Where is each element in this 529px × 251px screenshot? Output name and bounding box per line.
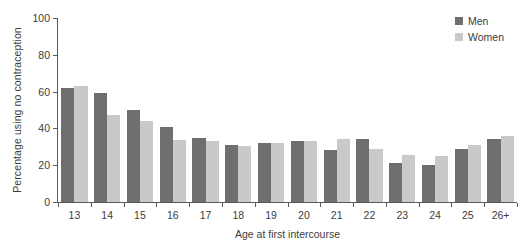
plot-area <box>58 18 517 202</box>
bar-women[interactable] <box>501 136 514 202</box>
y-tick-label: 20 <box>16 159 50 171</box>
x-tick-mark <box>288 203 289 207</box>
x-tick-mark <box>320 203 321 207</box>
bar-group <box>353 18 386 202</box>
bar-group <box>419 18 452 202</box>
legend-label-women: Women <box>468 31 504 43</box>
bar-group <box>58 18 91 202</box>
bar-men[interactable] <box>422 165 435 202</box>
legend-swatch-men-icon <box>455 17 463 25</box>
bar-men[interactable] <box>356 139 369 202</box>
x-tick-mark <box>58 203 59 207</box>
bar-group <box>189 18 222 202</box>
bar-women[interactable] <box>173 140 186 202</box>
x-tick-mark <box>517 203 518 207</box>
bar-men[interactable] <box>127 110 140 202</box>
bar-group <box>451 18 484 202</box>
bar-women[interactable] <box>238 146 251 202</box>
x-tick-mark <box>386 203 387 207</box>
bar-men[interactable] <box>94 93 107 202</box>
bar-group <box>156 18 189 202</box>
y-tick-label: 40 <box>16 122 50 134</box>
x-tick-mark <box>451 203 452 207</box>
bar-men[interactable] <box>455 149 468 202</box>
bar-men[interactable] <box>61 88 74 202</box>
legend-item-women[interactable]: Women <box>455 29 504 45</box>
legend-label-men: Men <box>468 15 488 27</box>
bar-women[interactable] <box>337 139 350 202</box>
x-tick-mark <box>124 203 125 207</box>
bar-women[interactable] <box>402 155 415 202</box>
bar-group <box>320 18 353 202</box>
bar-women[interactable] <box>140 121 153 202</box>
bar-men[interactable] <box>225 145 238 202</box>
x-axis-title: Age at first intercourse <box>58 228 517 240</box>
bar-women[interactable] <box>206 141 219 202</box>
x-tick-mark <box>91 203 92 207</box>
bar-group <box>222 18 255 202</box>
bar-women[interactable] <box>271 143 284 202</box>
bar-group <box>124 18 157 202</box>
y-tick-label: 80 <box>16 49 50 61</box>
bar-women[interactable] <box>435 156 448 202</box>
bar-group <box>288 18 321 202</box>
bar-men[interactable] <box>160 127 173 202</box>
bar-group <box>255 18 288 202</box>
bar-women[interactable] <box>304 141 317 202</box>
y-tick-label: 0 <box>16 196 50 208</box>
y-tick-label: 60 <box>16 86 50 98</box>
bar-group <box>484 18 517 202</box>
bar-group <box>386 18 419 202</box>
y-tick-label: 100 <box>16 12 50 24</box>
bar-men[interactable] <box>258 143 271 202</box>
bar-men[interactable] <box>291 141 304 202</box>
bar-women[interactable] <box>74 86 87 202</box>
bar-men[interactable] <box>389 163 402 202</box>
bar-men[interactable] <box>324 150 337 202</box>
x-tick-mark <box>222 203 223 207</box>
x-tick-mark <box>419 203 420 207</box>
bar-women[interactable] <box>107 115 120 202</box>
bar-women[interactable] <box>369 149 382 202</box>
x-tick-label: 26+ <box>481 209 521 221</box>
bar-men[interactable] <box>487 139 500 202</box>
bar-men[interactable] <box>192 138 205 202</box>
legend-swatch-women-icon <box>455 33 463 41</box>
x-tick-mark <box>189 203 190 207</box>
bar-group <box>91 18 124 202</box>
x-tick-mark <box>484 203 485 207</box>
x-tick-mark <box>353 203 354 207</box>
bar-chart: Percentage using no contraception 020406… <box>0 0 529 251</box>
x-tick-mark <box>255 203 256 207</box>
legend: Men Women <box>455 13 504 45</box>
x-tick-mark <box>156 203 157 207</box>
bar-women[interactable] <box>468 145 481 202</box>
legend-item-men[interactable]: Men <box>455 13 504 29</box>
